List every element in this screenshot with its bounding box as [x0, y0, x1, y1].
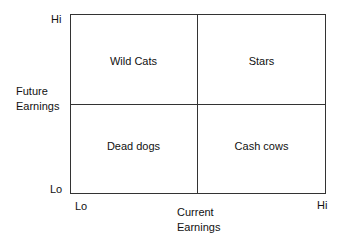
y-axis-title: Future Earnings — [16, 84, 59, 114]
quadrant-wild-cats: Wild Cats — [70, 55, 197, 67]
x-axis-lo-label: Lo — [75, 200, 87, 212]
quadrant-cash-cows: Cash cows — [198, 140, 325, 152]
y-axis-title-line1: Future — [16, 84, 59, 99]
x-axis-title-line2: Earnings — [177, 220, 220, 235]
x-axis-title-line1: Current — [177, 205, 220, 220]
x-axis-hi-label: Hi — [317, 199, 327, 211]
y-axis-title-line2: Earnings — [16, 99, 59, 114]
x-axis-title: Current Earnings — [177, 205, 220, 235]
quadrant-stars: Stars — [198, 55, 325, 67]
quadrant-dead-dogs: Dead dogs — [70, 140, 197, 152]
y-axis-hi-label: Hi — [51, 13, 61, 25]
y-axis-lo-label: Lo — [50, 183, 62, 195]
horizontal-divider — [70, 104, 326, 105]
